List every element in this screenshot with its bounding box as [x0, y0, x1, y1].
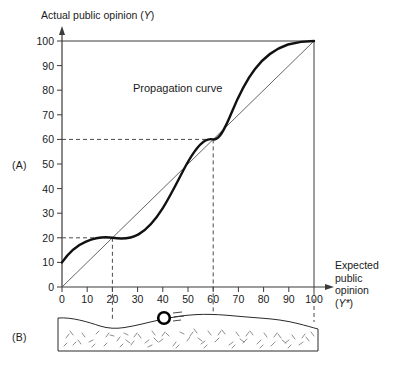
y-tick-100: 100 — [36, 35, 54, 47]
y-tick-60: 60 — [42, 133, 54, 145]
propagation-curve — [62, 41, 314, 262]
x-tick-40: 40 — [157, 293, 169, 305]
figure-svg: 100 90 80 70 60 50 40 30 20 10 0 — [0, 0, 396, 365]
x-tick-30: 30 — [132, 293, 144, 305]
y-axis-title-paren: ) — [151, 9, 155, 21]
x-tick-0: 0 — [59, 293, 65, 305]
y-axis-tick-labels: 100 90 80 70 60 50 40 30 20 10 0 — [36, 35, 54, 293]
x-axis-tick-labels: 0 10 20 30 40 50 60 70 80 90 100 — [59, 293, 323, 305]
propagation-curve-label: Propagation curve — [133, 82, 222, 94]
x-axis-variable: Y* — [339, 297, 350, 309]
panel-label-b: (B) — [12, 331, 27, 343]
rolling-ball-icon — [158, 312, 170, 324]
y-tick-90: 90 — [42, 60, 54, 72]
y-axis-variable: Y — [144, 9, 151, 21]
figure-container: (A) (B) Actual public opinion (Y) Expect… — [0, 0, 396, 365]
y-tick-20: 20 — [42, 232, 54, 244]
y-axis-ticks — [57, 41, 62, 287]
x-tick-10: 10 — [81, 293, 93, 305]
y-tick-80: 80 — [42, 84, 54, 96]
x-axis-title: Expectedpublicopinion(Y*) — [335, 259, 379, 309]
y-axis-arrow — [59, 26, 65, 35]
y-tick-30: 30 — [42, 207, 54, 219]
x-tick-90: 90 — [283, 293, 295, 305]
x-tick-50: 50 — [182, 293, 194, 305]
y-tick-10: 10 — [42, 256, 54, 268]
x-axis-title-line2: public — [335, 272, 362, 284]
y-tick-0: 0 — [48, 281, 54, 293]
y-tick-70: 70 — [42, 109, 54, 121]
panel-label-a: (A) — [12, 159, 27, 171]
x-axis-ticks — [62, 287, 314, 292]
x-axis-title-line1: Expected — [335, 259, 379, 271]
x-tick-80: 80 — [258, 293, 270, 305]
terrain-panel — [58, 312, 318, 351]
y-axis-title: Actual public opinion (Y) — [41, 9, 154, 22]
y-tick-40: 40 — [42, 183, 54, 195]
y-axis-title-text: Actual public opinion ( — [41, 9, 144, 21]
y-tick-50: 50 — [42, 158, 54, 170]
x-axis-title-line3: opinion — [335, 284, 369, 296]
x-tick-70: 70 — [233, 293, 245, 305]
x-axis-arrow — [325, 284, 334, 290]
